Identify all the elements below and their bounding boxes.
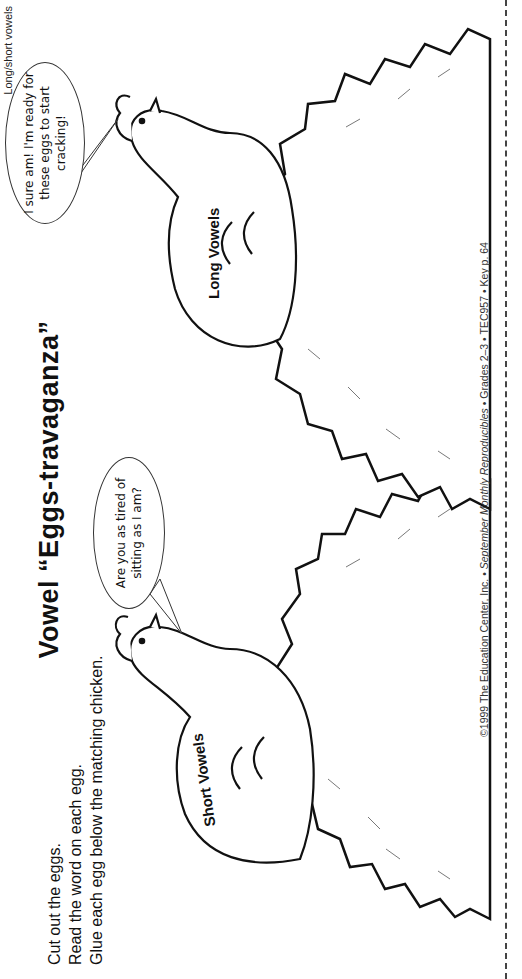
label-long-vowels: Long Vowels [205, 208, 222, 299]
speech-text: Are you as tired of sitting as I am? [113, 458, 145, 608]
copyright-footer: ©1999 The Education Center, Inc. • Septe… [478, 0, 490, 979]
speech-bubble-long: I sure am! I'm ready for these eggs to s… [5, 62, 85, 224]
footer-publication: September Monthly Reproducibles [478, 408, 490, 569]
speech-bubble-short: Are you as tired of sitting as I am? [93, 457, 165, 609]
dashed-cut-line [505, 0, 507, 979]
hay-nest-left-icon [276, 469, 490, 919]
speech-text: I sure am! I'm ready for these eggs to s… [21, 63, 69, 223]
footer-prefix: ©1999 The Education Center, Inc. • [478, 569, 490, 737]
worksheet-page: Long/short vowels Vowel “Eggs-travaganza… [0, 0, 522, 979]
footer-suffix: • Grades 2–3 • TEC957 • Key p. 64 [478, 242, 490, 408]
